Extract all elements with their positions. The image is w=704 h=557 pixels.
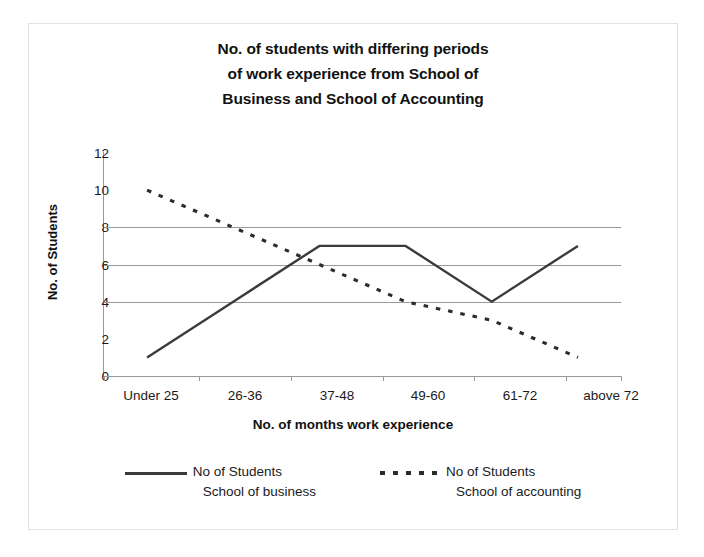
x-tick-2 (291, 376, 292, 381)
legend-item-school-of-business[interactable]: No of Students School of business (125, 462, 316, 503)
legend-label-business-line-2: School of business (193, 482, 316, 502)
y-axis-title: No. of Students (45, 204, 60, 300)
x-tick-label-49-60: 49-60 (411, 388, 446, 403)
x-tick-6 (621, 376, 622, 381)
x-tick-0 (104, 376, 105, 381)
x-tick-1 (199, 376, 200, 381)
y-tick-label-2: 2 (63, 331, 109, 346)
chart-legend: No of Students School of business No of … (29, 462, 677, 503)
x-tick-3 (383, 376, 384, 381)
series-plot (104, 153, 621, 376)
legend-label-school-of-accounting: No of Students School of accounting (446, 462, 581, 503)
plot-area-wrapper: 12 10 8 6 4 2 0 Under 25 26-36 37-48 49-… (104, 153, 621, 376)
x-tick-4 (474, 376, 475, 381)
x-tick-label-under-25: Under 25 (123, 388, 179, 403)
y-tick-label-8: 8 (63, 220, 109, 235)
x-tick-5 (566, 376, 567, 381)
y-tick-label-4: 4 (63, 294, 109, 309)
y-tick-label-10: 10 (63, 183, 109, 198)
x-tick-label-26-36: 26-36 (228, 388, 263, 403)
y-tick-label-12: 12 (63, 146, 109, 161)
series-line-school-of-business (147, 246, 578, 357)
legend-swatch-solid-line-icon (125, 466, 187, 480)
legend-label-business-line-1: No of Students (193, 464, 282, 479)
chart-title-line-1: No. of students with differing periods (29, 36, 677, 61)
legend-item-school-of-accounting[interactable]: No of Students School of accounting (378, 462, 581, 503)
gridline-0-axis (104, 376, 621, 377)
x-tick-label-61-72: 61-72 (503, 388, 538, 403)
legend-label-accounting-line-2: School of accounting (446, 482, 581, 502)
chart-frame: No. of students with differing periods o… (28, 23, 678, 530)
y-tick-label-6: 6 (63, 257, 109, 272)
series-line-school-of-accounting (147, 190, 578, 357)
legend-label-school-of-business: No of Students School of business (193, 462, 316, 503)
x-tick-label-37-48: 37-48 (320, 388, 355, 403)
legend-label-accounting-line-1: No of Students (446, 464, 535, 479)
legend-swatch-dashed-line-icon (378, 466, 440, 480)
chart-title-line-2: of work experience from School of (29, 61, 677, 86)
x-tick-label-above-72: above 72 (583, 388, 639, 403)
chart-title-line-3: Business and School of Accounting (29, 86, 677, 111)
y-tick-label-0: 0 (63, 369, 109, 384)
x-axis-title: No. of months work experience (29, 417, 677, 432)
chart-title: No. of students with differing periods o… (29, 36, 677, 111)
